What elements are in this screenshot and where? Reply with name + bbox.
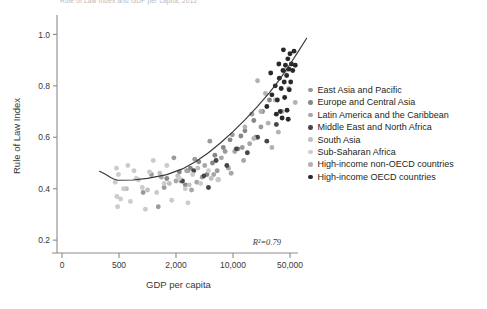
y-tick-label: 0.8 xyxy=(38,81,50,91)
data-point xyxy=(283,63,288,68)
data-point xyxy=(268,71,273,76)
legend-item[interactable]: Europe and Central Asia xyxy=(308,96,484,108)
data-point xyxy=(169,198,174,203)
data-point xyxy=(187,182,192,187)
data-point xyxy=(209,176,214,181)
chart-legend: East Asia and PacificEurope and Central … xyxy=(308,84,484,183)
legend-item[interactable]: Middle East and North Africa xyxy=(308,121,484,133)
data-point xyxy=(115,204,120,209)
y-tick-label: 1.0 xyxy=(38,30,50,40)
data-point xyxy=(164,163,169,168)
data-point xyxy=(292,49,297,54)
data-point xyxy=(258,109,263,114)
data-point xyxy=(215,177,220,182)
legend-item-label: South Asia xyxy=(318,134,361,146)
x-tick-label: 0 xyxy=(60,260,65,270)
y-tick-label: 0.2 xyxy=(38,235,50,245)
data-point xyxy=(147,170,152,175)
data-point xyxy=(276,62,281,67)
data-point xyxy=(282,95,287,100)
legend-item-label: Latin America and the Caribbean xyxy=(318,109,449,121)
data-point xyxy=(190,172,195,177)
data-point xyxy=(141,190,146,195)
data-point xyxy=(140,185,145,190)
data-point xyxy=(224,163,229,168)
data-point xyxy=(164,176,169,181)
data-point xyxy=(274,112,279,117)
data-point xyxy=(121,186,126,191)
x-tick-label: 10,000 xyxy=(220,260,246,270)
data-point xyxy=(242,125,247,130)
data-point xyxy=(284,73,289,78)
data-point xyxy=(167,181,172,186)
data-point xyxy=(207,139,212,144)
data-point xyxy=(247,141,252,146)
data-point xyxy=(228,137,233,142)
data-point xyxy=(114,166,119,171)
data-point xyxy=(215,168,220,173)
data-point xyxy=(185,200,190,205)
data-point xyxy=(214,158,219,163)
data-point xyxy=(154,190,159,195)
data-point xyxy=(267,98,272,103)
data-point xyxy=(282,80,287,85)
data-point xyxy=(281,47,286,52)
y-tick-label: 0.6 xyxy=(38,132,50,142)
data-point xyxy=(245,150,250,155)
data-point xyxy=(157,171,162,176)
legend-item[interactable]: High-income OECD countries xyxy=(308,171,484,183)
data-point xyxy=(206,168,211,173)
data-point xyxy=(151,158,156,163)
legend-item[interactable]: South Asia xyxy=(308,134,484,146)
data-point xyxy=(118,197,123,202)
data-point xyxy=(287,87,292,92)
data-point xyxy=(269,145,274,150)
legend-item[interactable]: East Asia and Pacific xyxy=(308,84,484,96)
data-point xyxy=(177,176,182,181)
data-point xyxy=(202,163,207,168)
legend-marker-icon xyxy=(308,100,313,105)
data-point xyxy=(241,158,246,163)
data-point xyxy=(276,130,281,135)
data-point xyxy=(266,121,271,126)
data-point xyxy=(219,155,224,160)
legend-item-label: High-income non-OECD countries xyxy=(318,158,454,170)
scatter-series xyxy=(159,135,258,193)
y-axis-title: Rule of Law Index xyxy=(11,98,22,174)
data-point xyxy=(116,172,121,177)
data-point xyxy=(280,116,285,121)
data-point xyxy=(279,86,284,91)
data-point xyxy=(195,166,200,171)
chart-figure: Rule of Law Index and GDP per capita, 20… xyxy=(0,0,487,309)
legend-item[interactable]: High-income non-OECD countries xyxy=(308,158,484,170)
data-point xyxy=(275,98,280,103)
data-point xyxy=(285,56,290,61)
legend-item[interactable]: Sub-Saharan Africa xyxy=(308,146,484,158)
data-point xyxy=(274,122,279,127)
x-tick-label: 2,000 xyxy=(165,260,187,270)
scatter-series xyxy=(180,122,279,190)
data-point xyxy=(156,204,161,209)
legend-marker-icon xyxy=(308,125,313,130)
data-point xyxy=(269,92,274,97)
data-point xyxy=(251,136,256,141)
data-point xyxy=(264,139,269,144)
data-point xyxy=(128,199,133,204)
data-point xyxy=(251,118,256,123)
data-point xyxy=(240,145,245,150)
legend-marker-icon xyxy=(308,150,313,155)
data-point xyxy=(290,68,295,73)
data-point xyxy=(183,186,188,191)
data-point xyxy=(258,125,263,130)
legend-marker-icon xyxy=(308,113,313,118)
r-squared-annotation: R²=0.79 xyxy=(252,237,282,247)
x-axis-title: GDP per capita xyxy=(146,279,211,290)
legend-item[interactable]: Latin America and the Caribbean xyxy=(308,109,484,121)
x-tick-label: 500 xyxy=(112,260,126,270)
data-point xyxy=(113,180,118,185)
data-point xyxy=(189,188,194,193)
data-point xyxy=(125,163,130,168)
legend-item-label: East Asia and Pacific xyxy=(318,84,402,96)
legend-item-label: Middle East and North Africa xyxy=(318,121,432,133)
data-point xyxy=(171,155,176,160)
